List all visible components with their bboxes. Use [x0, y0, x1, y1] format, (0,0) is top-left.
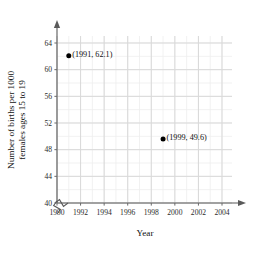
y-tick-label: 60: [44, 65, 52, 74]
y-tick-label: 56: [44, 92, 52, 101]
x-tick-label: 1998: [144, 208, 159, 217]
data-point: [161, 137, 166, 142]
y-axis-title-line-2: females ages 15 to 19: [17, 80, 27, 160]
x-tick-label: 2002: [191, 208, 206, 217]
x-tick-label: 1992: [73, 208, 88, 217]
x-tick-label: 1994: [97, 208, 112, 217]
data-point-label: (1999, 49.6): [166, 133, 207, 142]
scatter-chart: 40444852566064 1990199219941996199820002…: [0, 0, 256, 255]
y-tick-label: 40: [44, 199, 52, 208]
y-axis-title-line-1: Number of births per 1000: [6, 71, 16, 169]
y-tick-label: 48: [44, 145, 52, 154]
chart-canvas: 40444852566064 1990199219941996199820002…: [0, 0, 256, 255]
y-tick-label: 64: [44, 39, 52, 48]
x-tick-label: 2004: [214, 208, 229, 217]
x-tick-label: 1996: [120, 208, 135, 217]
x-tick-label: 1990: [49, 208, 64, 217]
x-tick-label: 2000: [167, 208, 182, 217]
x-axis-title: Year: [137, 228, 154, 238]
data-point: [66, 53, 71, 58]
y-tick-label: 52: [44, 119, 52, 128]
y-tick-label: 44: [44, 172, 52, 181]
data-point-label: (1991, 62.1): [72, 50, 113, 59]
